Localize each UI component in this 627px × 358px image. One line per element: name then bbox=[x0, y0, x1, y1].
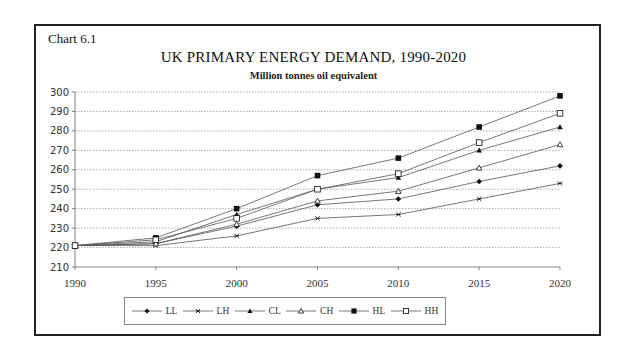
legend-item-lh: LH bbox=[183, 306, 230, 316]
data-series bbox=[72, 93, 563, 248]
legend-item-cl: CL bbox=[235, 306, 281, 316]
y-axis-ticks: 210220230240250260270280290300 bbox=[50, 87, 69, 273]
legend-label: HL bbox=[373, 306, 386, 316]
y-tick-label: 280 bbox=[50, 125, 69, 136]
triangle-filled-marker-icon bbox=[235, 306, 265, 316]
gridlines bbox=[75, 92, 560, 248]
legend-label: LH bbox=[217, 306, 230, 316]
y-tick-label: 220 bbox=[50, 242, 69, 253]
y-tick-label: 240 bbox=[50, 203, 69, 214]
legend: LLLHCLCHHLHH bbox=[124, 297, 446, 325]
series-hl bbox=[72, 93, 563, 248]
x-tick-label: 1990 bbox=[64, 277, 87, 289]
diamond-filled-marker-icon bbox=[132, 306, 162, 316]
x-tick-label: 1995 bbox=[145, 277, 168, 289]
legend-item-hh: HH bbox=[391, 306, 439, 316]
y-tick-label: 250 bbox=[50, 184, 69, 195]
legend-label: HH bbox=[425, 306, 439, 316]
triangle-open-marker-icon bbox=[286, 306, 316, 316]
y-tick-label: 210 bbox=[50, 262, 69, 273]
legend-label: CH bbox=[320, 306, 333, 316]
x-axis-ticks: 1990199520002005201020152020 bbox=[64, 277, 572, 289]
axes bbox=[72, 92, 560, 270]
y-tick-label: 270 bbox=[50, 145, 69, 156]
legend-label: LL bbox=[166, 306, 178, 316]
legend-item-ll: LL bbox=[132, 306, 178, 316]
legend-item-ch: CH bbox=[286, 306, 333, 316]
square-open-marker-icon bbox=[391, 306, 421, 316]
y-tick-label: 300 bbox=[50, 87, 69, 98]
x-tick-label: 2005 bbox=[307, 277, 330, 289]
x-marker-icon bbox=[183, 306, 213, 316]
x-tick-label: 2000 bbox=[226, 277, 249, 289]
legend-item-hl: HL bbox=[339, 306, 386, 316]
x-tick-label: 2020 bbox=[549, 277, 572, 289]
series-ch bbox=[72, 142, 563, 248]
x-tick-label: 2015 bbox=[468, 277, 491, 289]
y-tick-label: 260 bbox=[50, 164, 69, 175]
x-tick-label: 2010 bbox=[387, 277, 410, 289]
y-tick-label: 290 bbox=[50, 106, 69, 117]
legend-label: CL bbox=[269, 306, 281, 316]
y-tick-label: 230 bbox=[50, 223, 69, 234]
square-filled-marker-icon bbox=[339, 306, 369, 316]
